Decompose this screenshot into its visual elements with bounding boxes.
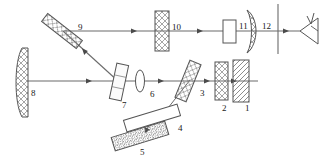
label-6: 6 xyxy=(150,90,155,99)
label-11: 11 xyxy=(239,22,248,31)
label-9: 9 xyxy=(78,23,83,32)
component-8-concave-mirror xyxy=(16,48,28,117)
diagram-canvas xyxy=(0,0,327,158)
eye-icon xyxy=(300,13,318,44)
label-8: 8 xyxy=(31,89,36,98)
label-4: 4 xyxy=(178,124,183,133)
component-6-biconvex-lens xyxy=(136,70,145,92)
label-10: 10 xyxy=(172,23,181,32)
component-10-hatched-plate xyxy=(155,11,169,51)
component-7-beamsplitter xyxy=(109,63,128,101)
component-11-plain-plate xyxy=(223,20,236,43)
label-7: 7 xyxy=(122,101,127,110)
optical-system-diagram: 1 2 3 4 5 6 7 8 9 10 11 12 xyxy=(0,0,327,158)
component-2-cross-hatched-plate xyxy=(215,62,228,100)
component-1-hatched-plate xyxy=(233,60,249,102)
label-3: 3 xyxy=(200,89,205,98)
label-1: 1 xyxy=(245,104,250,113)
label-5: 5 xyxy=(140,148,145,157)
label-12: 12 xyxy=(262,22,271,31)
label-2: 2 xyxy=(222,104,227,113)
